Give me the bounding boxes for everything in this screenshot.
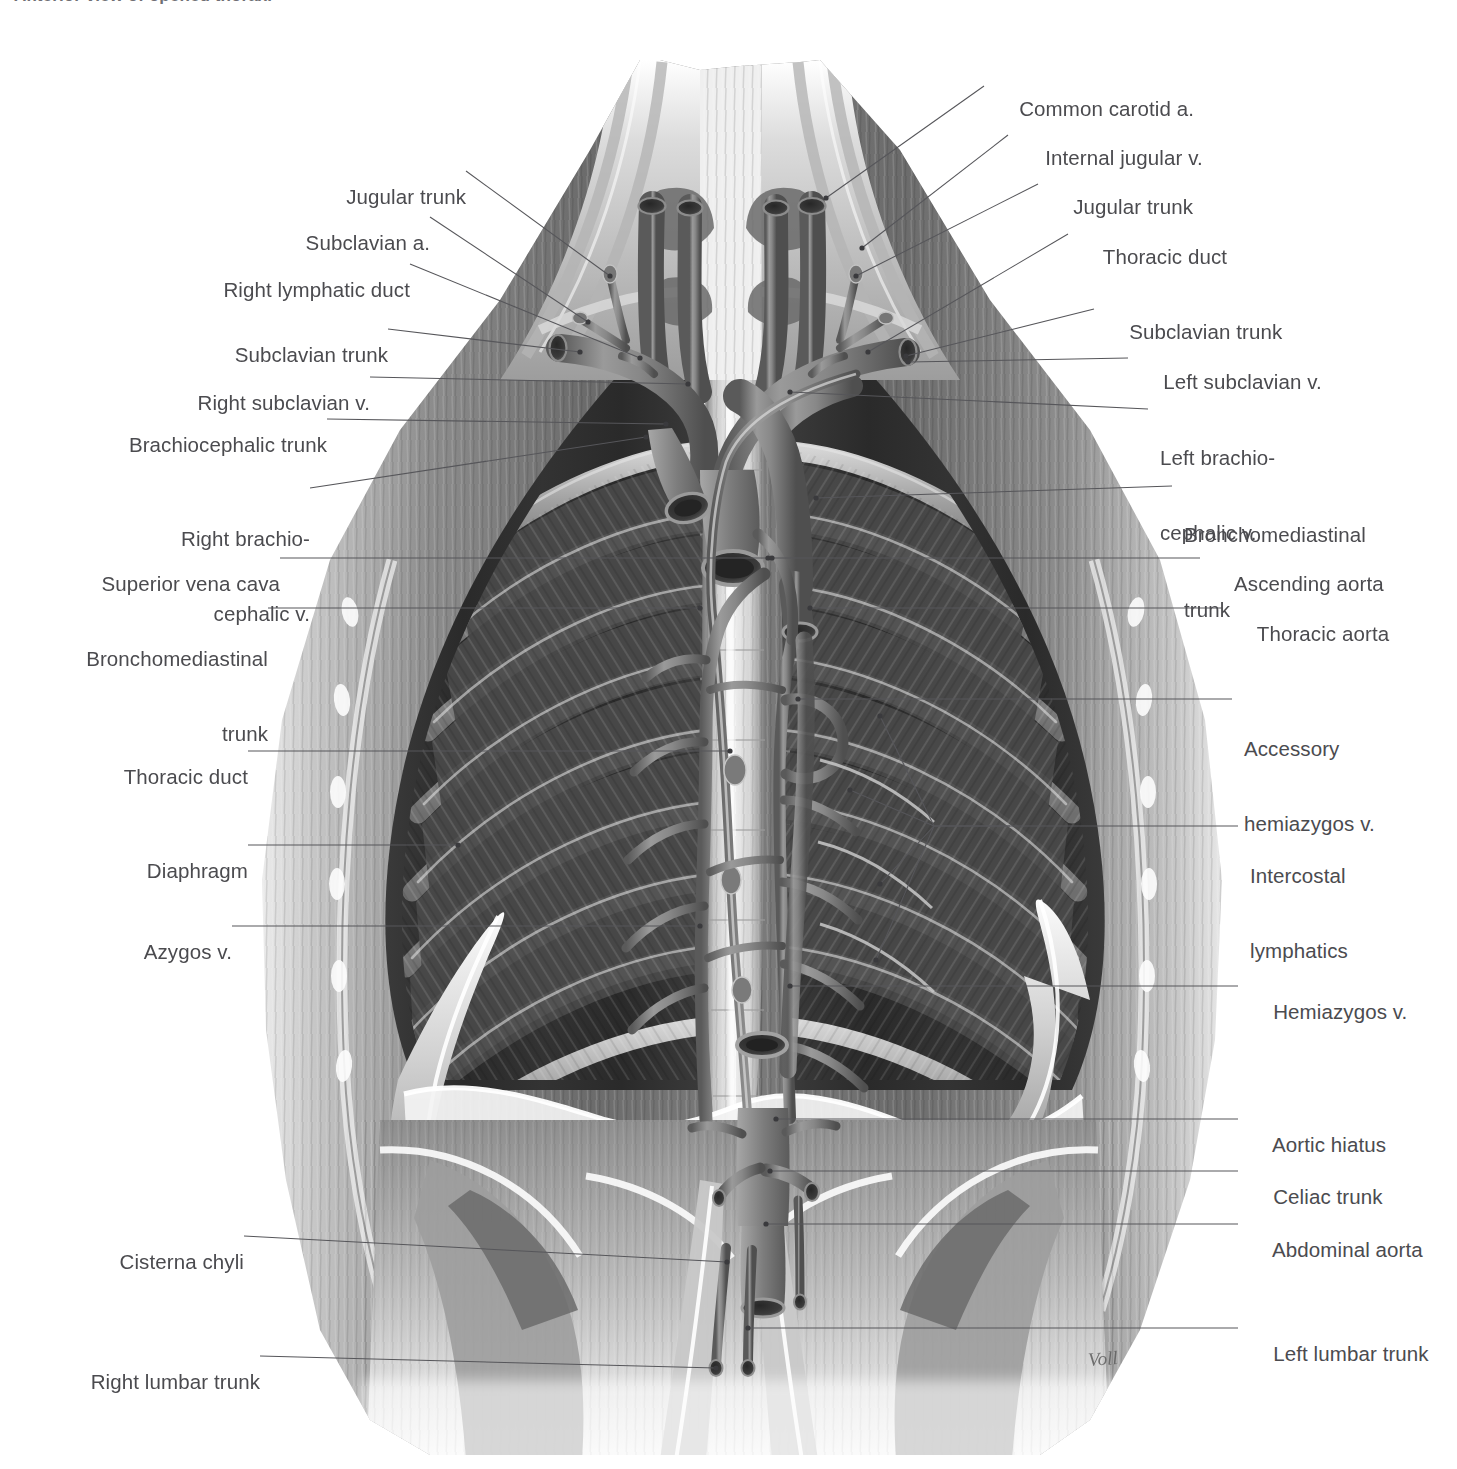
label-text: Internal jugular v. [1045,146,1203,169]
label-text: Subclavian trunk [235,343,388,366]
label-text: Azygos v. [144,940,232,963]
label-text: Right lymphatic duct [223,278,410,301]
label-text: Subclavian a. [306,231,430,254]
label-thoracic-aorta: Thoracic aorta [1234,596,1389,671]
label-text: Left lumbar trunk [1273,1342,1429,1365]
label-text: Jugular trunk [1073,195,1193,218]
figure-canvas: Anterior view of opened thorax. Jugular … [0,0,1457,1469]
label-text-line1: Bronchomediastinal [0,646,268,671]
label-brachiocephalic-trunk: Brachiocephalic trunk [0,407,339,482]
label-text: Cisterna chyli [120,1250,244,1273]
label-text: Diaphragm [147,859,248,882]
label-text: Ascending aorta [1234,572,1384,595]
label-text: Thoracic duct [124,765,248,788]
artist-signature: Voll [1087,1347,1118,1371]
label-right-lymphatic-duct: Right lymphatic duct [0,252,422,327]
label-text: Right lumbar trunk [91,1370,260,1393]
label-text: Aortic hiatus [1272,1133,1386,1156]
label-azygos-vein: Azygos v. [0,914,244,989]
label-text: Thoracic aorta [1257,622,1389,645]
label-thoracic-duct-right: Thoracic duct [1080,219,1227,294]
label-text: Abdominal aorta [1272,1238,1423,1261]
label-left-lumbar-trunk: Left lumbar trunk [1250,1316,1429,1391]
label-text: Hemiazygos v. [1273,1000,1407,1023]
label-cisterna-chyli: Cisterna chyli [0,1224,256,1299]
label-abdominal-aorta: Abdominal aorta [1250,1212,1423,1287]
label-text-line1: Intercostal [1250,863,1348,888]
hiatus-ring [737,1033,787,1057]
label-text: Superior vena cava [102,572,280,595]
label-text: Left subclavian v. [1163,370,1322,393]
label-text: Brachiocephalic trunk [129,433,327,456]
label-text: Subclavian trunk [1129,320,1282,343]
label-right-lumbar-trunk: Right lumbar trunk [0,1344,272,1419]
label-thoracic-duct-left: Thoracic duct [0,739,260,814]
label-text-line1: Bronchomediastinal [1184,522,1366,547]
label-text-line1: Left brachio- [1160,445,1275,470]
label-text: Thoracic duct [1103,245,1227,268]
label-hemiazygos-vein: Hemiazygos v. [1250,974,1407,1049]
label-text: Celiac trunk [1273,1185,1382,1208]
label-text-line1: Accessory [1244,736,1375,761]
label-diaphragm: Diaphragm [0,833,260,908]
label-text-line2: lymphatics [1250,938,1348,963]
figure-caption: Anterior view of opened thorax. [14,0,272,6]
label-text: Common carotid a. [1019,97,1194,120]
